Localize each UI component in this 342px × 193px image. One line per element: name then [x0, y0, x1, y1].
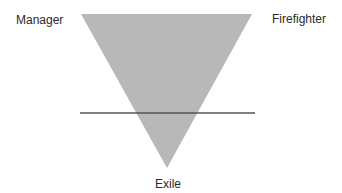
label-firefighter: Firefighter	[272, 12, 326, 26]
inverted-triangle	[81, 14, 252, 168]
diagram-graphic	[0, 0, 342, 193]
label-exile: Exile	[155, 177, 181, 191]
label-manager: Manager	[16, 13, 63, 27]
diagram-canvas: Manager Firefighter Exile	[0, 0, 342, 193]
